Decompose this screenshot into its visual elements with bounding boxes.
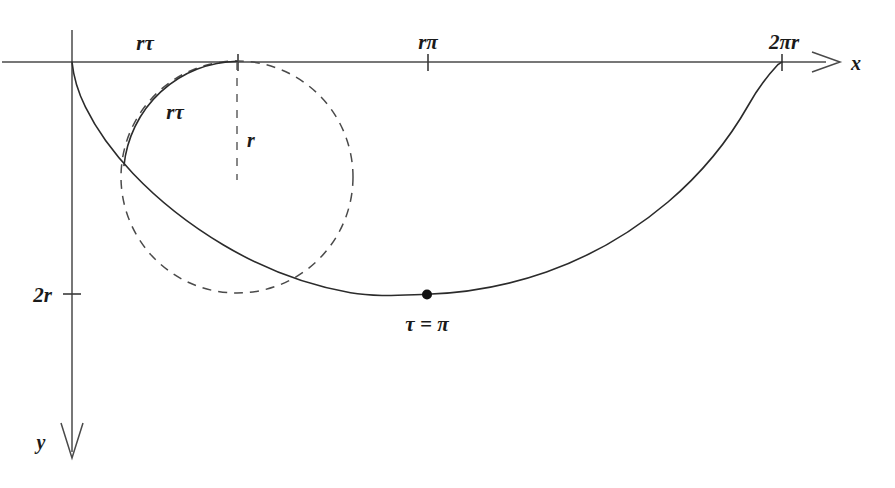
cycloid-figure-container: rτ rπ 2πr 2r rτ r τ = π x y [0, 0, 895, 488]
x-tick-label-rtau: rτ [136, 31, 154, 55]
radius-label-r: r [247, 129, 255, 151]
y-tick-label-2r: 2r [32, 283, 53, 307]
tau-pi-point-marker [422, 290, 432, 300]
x-tick-label-rpi: rπ [418, 30, 438, 54]
cycloid-diagram: rτ rπ 2πr 2r rτ r τ = π x y [0, 0, 895, 488]
labels-group: rτ rπ 2πr 2r rτ r τ = π x y [32, 30, 861, 454]
y-axis-label: y [35, 431, 46, 454]
cycloid-curve [72, 62, 782, 295]
x-tick-label-2pir: 2πr [768, 30, 800, 54]
tau-equals-pi-label: τ = π [405, 312, 449, 336]
x-axis-label: x [850, 52, 861, 74]
axes-group [2, 30, 840, 458]
arc-length-label-rtau: rτ [166, 100, 184, 124]
